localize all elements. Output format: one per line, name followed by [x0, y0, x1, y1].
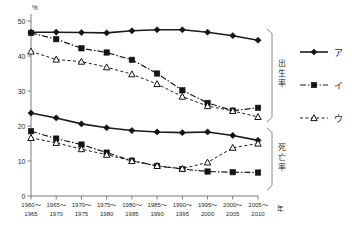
data-point-diamond — [129, 28, 135, 34]
x-axis-tick-label-top: 1990～ — [173, 202, 192, 208]
data-point-square — [28, 30, 33, 35]
data-point-diamond — [179, 130, 185, 136]
x-axis-tick-label-bottom: 1990 — [150, 211, 164, 217]
data-point-square — [180, 88, 185, 93]
x-axis-tick-label-bottom: 1965 — [24, 211, 38, 217]
data-point-diamond — [53, 29, 59, 35]
y-axis-tick-label: 10 — [18, 158, 26, 165]
x-axis-tick-label-top: 1970～ — [72, 202, 91, 208]
series-path — [31, 33, 258, 111]
x-axis-tick-label-bottom: 2005 — [226, 211, 240, 217]
data-point-triangle — [129, 71, 135, 77]
death-rate-bracket — [267, 128, 272, 190]
y-axis-tick-label: 50 — [18, 18, 26, 25]
legend-item-イ[interactable]: イ — [300, 81, 343, 91]
legend-item-ウ[interactable]: ウ — [300, 114, 343, 124]
data-point-diamond — [154, 27, 160, 33]
y-axis-tick-label: 0 — [22, 193, 26, 200]
chart-figure: 50403020100%1960～19651965～19701970～19751… — [0, 0, 352, 227]
x-axis-tick-label-top: 1965～ — [47, 202, 66, 208]
data-point-triangle — [28, 48, 34, 54]
death-rate-group-label: 死亡率 — [278, 143, 286, 172]
x-axis-tick-label-bottom: 1980 — [100, 211, 114, 217]
data-point-triangle — [28, 135, 34, 141]
x-axis-tick-label-top: 2005～ — [248, 202, 267, 208]
data-point-square — [54, 37, 59, 42]
x-axis-tick-label-bottom: 1970 — [50, 211, 64, 217]
axis-lines — [31, 14, 258, 196]
series-1 — [28, 27, 261, 44]
legend-item-ア[interactable]: ア — [300, 48, 343, 58]
x-axis-tick-label-bottom: 2010 — [251, 211, 265, 217]
data-point-triangle — [103, 64, 109, 70]
series-2 — [28, 30, 260, 113]
data-point-diamond — [28, 110, 34, 116]
data-point-diamond — [311, 49, 317, 55]
data-point-diamond — [53, 115, 59, 121]
x-axis-tick-label-bottom: 2000 — [201, 211, 215, 217]
data-point-square — [104, 50, 109, 55]
data-point-square — [311, 82, 316, 87]
birth-rate-bracket — [267, 29, 272, 122]
data-point-square — [205, 169, 210, 174]
series-6 — [28, 135, 261, 172]
data-point-diamond — [78, 29, 84, 35]
birth-rate-group-label: 出生率 — [278, 58, 286, 88]
legend-label: イ — [334, 81, 343, 91]
data-point-square — [255, 170, 260, 175]
series-4 — [28, 110, 261, 144]
y-axis-tick-label: 20 — [18, 123, 26, 130]
data-point-square — [230, 170, 235, 175]
x-axis-tick-label-bottom: 1995 — [176, 211, 190, 217]
series-path — [31, 131, 258, 172]
x-axis-tick-label-bottom: 1985 — [125, 211, 139, 217]
x-axis-tick-label-top: 2000～ — [223, 202, 242, 208]
data-point-square — [129, 57, 134, 62]
svg-text:亡: 亡 — [278, 152, 286, 162]
x-axis-tick-label-bottom: 1975 — [75, 211, 89, 217]
y-axis-tick-label: 30 — [18, 88, 26, 95]
data-point-square — [28, 129, 33, 134]
data-point-diamond — [129, 127, 135, 133]
svg-text:出: 出 — [278, 58, 286, 68]
x-axis-unit-label: 年 — [277, 204, 284, 213]
data-point-square — [154, 71, 159, 76]
data-point-square — [255, 105, 260, 110]
line-chart-canvas: 50403020100%1960～19651965～19701970～19751… — [0, 0, 352, 227]
svg-text:率: 率 — [278, 162, 286, 172]
x-axis-tick-label-top: 1960～ — [21, 202, 40, 208]
data-point-square — [79, 46, 84, 51]
data-point-diamond — [104, 125, 110, 131]
series-path — [31, 138, 258, 169]
legend-label: ウ — [334, 114, 343, 124]
data-point-diamond — [204, 29, 210, 35]
data-point-diamond — [230, 132, 236, 138]
svg-text:率: 率 — [278, 78, 286, 88]
series-path — [31, 30, 258, 41]
y-axis-unit-label: % — [32, 4, 38, 11]
data-point-diamond — [179, 27, 185, 33]
svg-text:生: 生 — [278, 68, 286, 78]
data-point-diamond — [204, 129, 210, 135]
data-point-diamond — [104, 30, 110, 36]
y-axis-tick-label: 40 — [18, 53, 26, 60]
legend-label: ア — [334, 48, 343, 58]
x-axis-tick-label-top: 1975～ — [97, 202, 116, 208]
x-axis-tick-label-top: 1995～ — [198, 202, 217, 208]
data-point-diamond — [78, 121, 84, 127]
series-path — [31, 113, 258, 140]
x-axis-tick-label-top: 1980～ — [122, 202, 141, 208]
data-point-triangle — [154, 81, 160, 87]
series-path — [31, 51, 258, 116]
x-axis-tick-label-top: 1985～ — [147, 202, 166, 208]
data-point-triangle — [255, 114, 261, 120]
data-point-diamond — [230, 33, 236, 39]
data-point-diamond — [255, 37, 261, 43]
data-point-triangle — [179, 93, 185, 99]
svg-text:死: 死 — [278, 143, 286, 152]
data-point-diamond — [154, 129, 160, 135]
data-point-triangle — [204, 159, 210, 165]
